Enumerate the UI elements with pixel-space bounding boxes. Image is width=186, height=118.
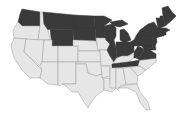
state-MT <box>43 12 74 30</box>
state-SD <box>74 28 96 41</box>
state-MI-lower <box>120 29 131 43</box>
state-WY <box>50 29 74 46</box>
state-WI <box>104 24 116 40</box>
state-PA <box>134 36 154 46</box>
state-KS <box>78 51 101 62</box>
state-FL <box>118 84 150 110</box>
state-CO <box>58 46 78 62</box>
state-OH <box>122 40 134 56</box>
us-map <box>0 0 186 118</box>
state-AR <box>101 66 110 78</box>
state-MA <box>158 28 170 32</box>
state-NM <box>58 62 76 86</box>
state-IN <box>116 42 122 58</box>
state-CT <box>158 32 164 36</box>
state-MS <box>110 68 116 88</box>
state-AZ <box>40 62 58 85</box>
state-RI <box>164 32 166 35</box>
state-ND <box>74 15 95 28</box>
state-WA <box>18 9 40 26</box>
